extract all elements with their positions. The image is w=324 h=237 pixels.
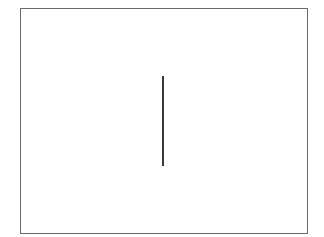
diagram-frame bbox=[20, 8, 308, 234]
diagram-canvas bbox=[0, 0, 324, 237]
vertical-line bbox=[162, 76, 164, 166]
